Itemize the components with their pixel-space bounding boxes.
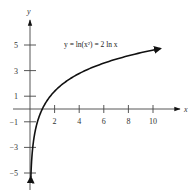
- y-tick-label: −3: [9, 143, 18, 152]
- y-tick-label: −1: [9, 118, 18, 127]
- y-tick-label: 1: [14, 92, 18, 101]
- x-axis-title: x: [183, 105, 188, 114]
- equation-label: y = ln(x²) = 2 ln x: [64, 40, 118, 49]
- x-tick-label: 8: [126, 117, 130, 126]
- x-tick-label: 4: [77, 117, 81, 126]
- x-tick-label: 2: [53, 117, 57, 126]
- ln-curve: [31, 49, 161, 178]
- x-ticks: 246810: [53, 105, 157, 126]
- y-tick-label: 3: [14, 67, 18, 76]
- y-tick-label: −5: [9, 169, 18, 178]
- y-axis-title: y: [26, 7, 31, 16]
- y-tick-label: 5: [14, 41, 18, 50]
- x-tick-label: 6: [102, 117, 106, 126]
- chart: x y 246810 531−1−3−5 y = ln(x²) = 2 ln x: [0, 0, 196, 192]
- x-tick-label: 10: [149, 117, 157, 126]
